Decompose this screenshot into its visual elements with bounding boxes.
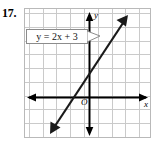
x-axis-label: x bbox=[144, 100, 148, 109]
y-axis-label: y bbox=[94, 11, 98, 20]
problem-number: 17. bbox=[2, 6, 16, 21]
equation-box: y = 2x + 3 bbox=[26, 29, 88, 44]
coordinate-graph: y = 2x + 3 y x O bbox=[24, 8, 151, 138]
problem-figure: 17. bbox=[0, 0, 156, 145]
equation-text: y = 2x + 3 bbox=[36, 32, 77, 42]
origin-label: O bbox=[81, 98, 88, 107]
callout-leader-icon bbox=[87, 29, 101, 44]
equation-callout: y = 2x + 3 bbox=[26, 29, 94, 44]
